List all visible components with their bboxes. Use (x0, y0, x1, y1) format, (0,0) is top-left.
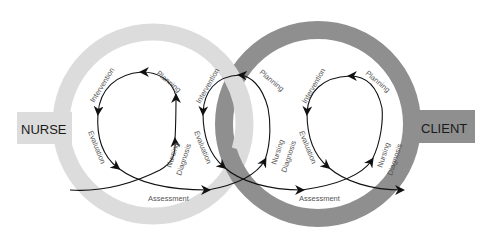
client-step-intervention: Intervention (300, 67, 327, 105)
nurse-step-intervention: Intervention (88, 66, 116, 104)
client-step-evaluation: Evaluation (297, 129, 318, 165)
shared-arrow-up (265, 108, 270, 160)
nurse-step-evaluation: Evaluation (86, 129, 107, 165)
client-label: CLIENT (421, 121, 467, 136)
shared-step-intervention: Intervention (194, 67, 221, 105)
nurse-arrow-to-planning (175, 96, 176, 140)
shared-step-evaluation: Evaluation (192, 129, 213, 165)
nurse-step-planning: Planning (155, 69, 183, 95)
nurse-step-assessment: Assessment (148, 194, 190, 203)
client-step-assessment: Assessment (299, 194, 341, 203)
shared-step-planning: Planning (258, 68, 286, 94)
nurse-arrow-assessment (118, 168, 208, 190)
nursing-process-diagram: NURSE CLIENT Intervention Planning Evalu… (0, 0, 484, 240)
nurse-label: NURSE (21, 122, 67, 137)
client-arrow-to-nursing (302, 160, 372, 190)
